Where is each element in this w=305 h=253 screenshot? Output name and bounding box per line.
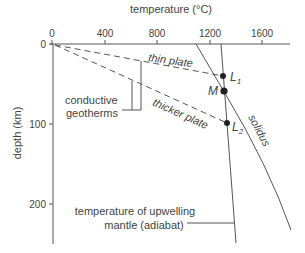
point-l2 <box>224 120 230 126</box>
thin-plate-label: thin plate <box>148 51 194 69</box>
x-axis-title: temperature (°C) <box>130 3 212 15</box>
x-tick-400: 400 <box>97 28 114 39</box>
point-l1 <box>220 73 226 79</box>
conductive-bracket <box>122 61 141 110</box>
label-m: M <box>208 84 218 98</box>
x-tick-0: 0 <box>49 28 55 39</box>
y-tick-200: 200 <box>29 199 46 210</box>
solidus-label: solidus <box>246 112 273 148</box>
y-axis-title: depth (km) <box>11 107 23 160</box>
x-ticks <box>52 40 262 44</box>
x-tick-800: 800 <box>149 28 166 39</box>
y-tick-0: 0 <box>40 39 46 50</box>
x-tick-1200: 1200 <box>199 28 222 39</box>
y-ticks <box>49 44 53 204</box>
thin-plate-geotherm <box>55 45 223 76</box>
adiabat-label-line1: temperature of upwelling <box>75 205 195 217</box>
label-l1: L1 <box>230 70 241 86</box>
y-tick-100: 100 <box>29 119 46 130</box>
x-tick-1600: 1600 <box>251 28 274 39</box>
point-m <box>220 87 227 94</box>
solidus-curve <box>196 44 291 230</box>
thicker-plate-label: thicker plate <box>151 96 210 131</box>
geotherm-diagram: temperature (°C) 0 400 800 1200 1600 0 1… <box>0 0 305 253</box>
conductive-label-line2: geotherms <box>66 107 118 119</box>
conductive-label-line1: conductive <box>65 94 118 106</box>
adiabat-label-line2: mantle (adiabat) <box>104 219 184 231</box>
